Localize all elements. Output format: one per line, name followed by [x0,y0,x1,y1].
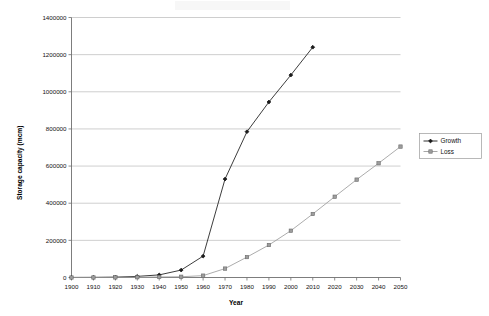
data-point-loss [245,255,248,258]
y-tick-label: 1400000 [42,14,67,21]
data-point-loss [377,162,380,165]
x-tick-label: 1960 [196,283,210,290]
y-tick-label: 1200000 [42,51,67,58]
x-tick-label: 1980 [240,283,254,290]
x-tick-label: 2010 [306,283,320,290]
y-tick-label: 0 [63,274,67,281]
x-tick-label: 1930 [130,283,144,290]
data-point-loss [158,275,161,278]
data-point-loss [223,267,226,270]
x-tick-label: 1970 [218,283,232,290]
data-point-loss [92,276,95,279]
chart-container: 0200000400000600000800000100000012000001… [0,0,489,316]
y-tick-label: 200000 [46,237,67,244]
chart-background [0,0,489,316]
y-axis-title: Storage capacity (mcm) [16,126,24,200]
x-tick-label: 1940 [152,283,166,290]
data-point-loss [311,212,314,215]
legend-label-growth: Growth [441,137,462,144]
data-point-loss [399,145,402,148]
data-point-loss [267,243,270,246]
data-point-loss [114,276,117,279]
data-point-loss [179,275,182,278]
legend-marker-loss [429,150,432,153]
y-tick-label: 400000 [46,199,67,206]
chart-legend[interactable]: GrowthLoss [420,134,482,159]
y-tick-label: 600000 [46,162,67,169]
y-tick-label: 1000000 [42,88,67,95]
y-tick-label: 800000 [46,125,67,132]
data-point-loss [333,195,336,198]
x-tick-label: 2000 [284,283,298,290]
x-tick-label: 2030 [350,283,364,290]
line-chart: 0200000400000600000800000100000012000001… [0,0,489,316]
x-tick-label: 2040 [372,283,386,290]
x-tick-label: 2050 [394,283,408,290]
chart-title-placeholder [175,1,290,10]
x-tick-label: 1920 [108,283,122,290]
x-tick-label: 1900 [65,283,79,290]
data-point-loss [201,274,204,277]
data-point-loss [136,276,139,279]
x-tick-label: 1990 [262,283,276,290]
legend-label-loss: Loss [441,148,455,155]
data-point-loss [355,178,358,181]
data-point-loss [70,276,73,279]
x-tick-label: 2020 [328,283,342,290]
x-tick-label: 1910 [87,283,101,290]
x-tick-label: 1950 [174,283,188,290]
data-point-loss [289,229,292,232]
x-axis-title: Year [229,299,243,306]
